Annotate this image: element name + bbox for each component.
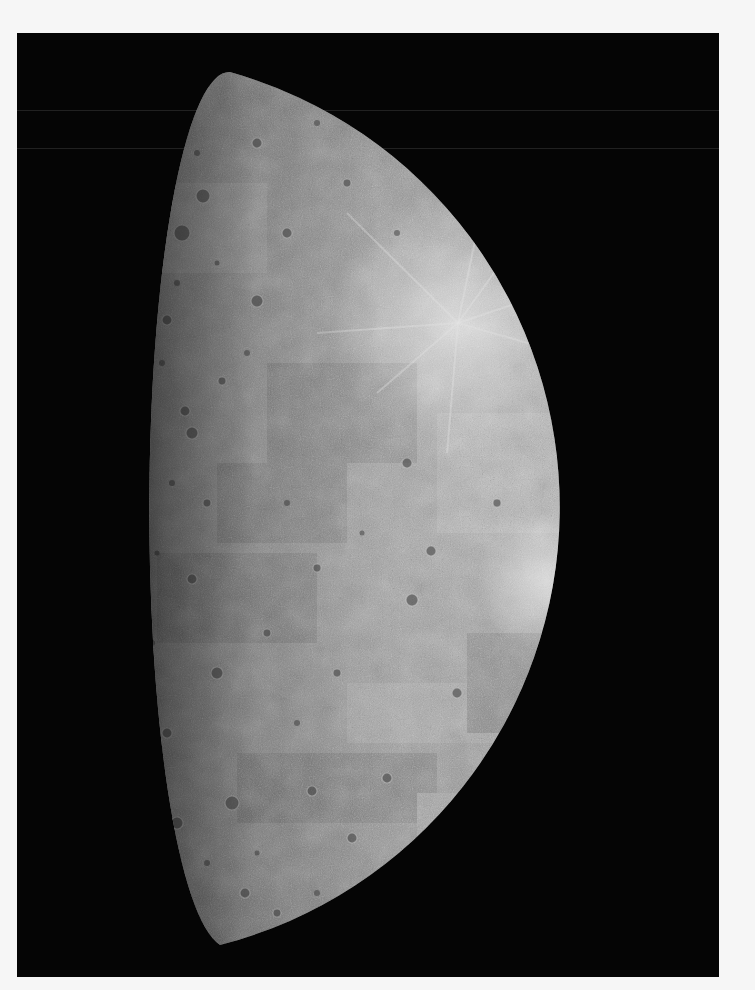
photo-frame (17, 33, 719, 977)
planet-mercury (17, 33, 719, 977)
planet-disk (17, 33, 719, 977)
